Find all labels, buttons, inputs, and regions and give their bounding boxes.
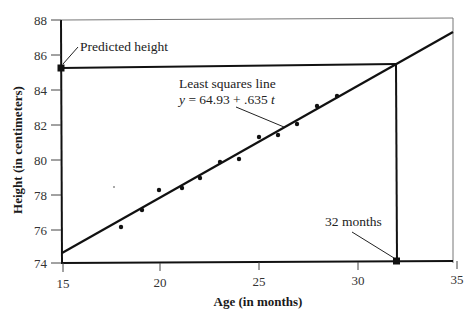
- data-point: [257, 135, 261, 139]
- y-tick-82: 82: [34, 118, 47, 133]
- y-tick-76: 76: [34, 223, 48, 238]
- y-axis-title: Height (in centimeters): [10, 86, 25, 214]
- y-axis: [61, 20, 62, 264]
- data-point: [140, 208, 144, 212]
- x-tick-30: 30: [352, 273, 365, 288]
- data-point: [157, 188, 161, 192]
- 32-months-marker: [393, 258, 400, 265]
- top-frame: [61, 18, 453, 20]
- data-point: [218, 160, 222, 164]
- predicted-height-marker: [58, 65, 65, 72]
- y-tick-84: 84: [34, 83, 48, 98]
- least-squares-equation: y = 64.93 + .635 t: [177, 92, 276, 107]
- y-ticks: [51, 20, 61, 263]
- y-tick-80: 80: [34, 153, 47, 168]
- data-point: [198, 176, 202, 180]
- y-tick-74: 74: [34, 256, 48, 271]
- 32-months-line: [396, 64, 397, 262]
- x-tick-25: 25: [253, 274, 266, 289]
- data-point: [119, 225, 123, 229]
- predicted-height-label: Predicted height: [80, 39, 168, 54]
- least-squares-pointer: [236, 107, 284, 127]
- data-point: [295, 122, 299, 126]
- data-point: [180, 186, 184, 190]
- y-tick-78: 78: [34, 188, 47, 203]
- data-point: [335, 94, 339, 98]
- x-tick-35: 35: [451, 272, 464, 287]
- y-tick-88: 88: [34, 13, 47, 28]
- predicted-height-line: [61, 64, 396, 68]
- stray-mark: [113, 186, 114, 187]
- data-point: [276, 133, 280, 137]
- least-squares-label: Least squares line: [179, 76, 276, 91]
- 32-months-label: 32 months: [325, 214, 382, 229]
- 32-months-pointer: [352, 232, 394, 258]
- x-tick-20: 20: [154, 275, 167, 290]
- data-point: [315, 104, 319, 108]
- data-point: [237, 157, 241, 161]
- y-tick-labels: 88 86 84 82 80 78 76 74: [34, 13, 48, 271]
- x-tick-15: 15: [57, 276, 70, 291]
- y-tick-86: 86: [34, 48, 48, 63]
- predicted-height-pointer: [63, 47, 78, 64]
- data-points: [113, 94, 339, 229]
- chart: 88 86 84 82 80 78 76 74 15 20 25 30 35 A…: [0, 0, 472, 323]
- x-tick-labels: 15 20 25 30 35: [57, 272, 464, 291]
- x-axis-title: Age (in months): [214, 294, 303, 309]
